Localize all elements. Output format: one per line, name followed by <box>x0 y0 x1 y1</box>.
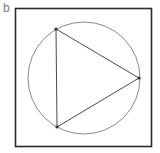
vertex-dot-bottom-left <box>55 125 58 128</box>
square-frame <box>16 9 152 147</box>
circumscribed-circle <box>28 22 140 134</box>
vertex-dot-right <box>137 76 140 79</box>
equilateral-triangle <box>56 29 139 127</box>
inscribed-triangle-diagram <box>0 0 160 153</box>
vertex-dot-top-left <box>54 27 57 30</box>
